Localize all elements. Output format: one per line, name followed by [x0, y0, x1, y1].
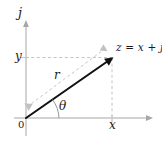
point-label: z = x + jy — [116, 42, 162, 53]
complex-plane-diagram: j y x 0 r θ z = x + jy — [0, 0, 162, 146]
origin-label: 0 — [18, 120, 24, 130]
y-value-label: y — [15, 50, 22, 62]
real-axis-arrowhead — [146, 115, 153, 121]
angle-label: θ — [59, 100, 66, 112]
magnitude-label: r — [54, 69, 60, 81]
magnitude-arrowhead-upper — [100, 44, 108, 51]
real-axis-label: x — [109, 119, 116, 131]
vector-z-line — [26, 61, 108, 118]
imaginary-axis-arrowhead — [23, 20, 29, 27]
vector-group — [26, 57, 114, 118]
imaginary-axis-label: j — [18, 6, 22, 19]
magnitude-dashed-line — [27, 48, 106, 107]
